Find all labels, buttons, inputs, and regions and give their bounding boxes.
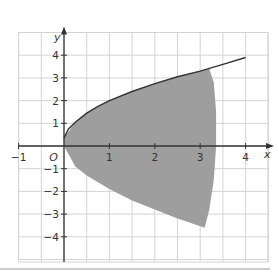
x-tick-label: 2: [151, 151, 158, 163]
x-tick-label: 4: [242, 151, 249, 163]
x-tick-label: 1: [106, 151, 113, 163]
y-tick-label: −3: [44, 208, 59, 220]
y-axis-arrow-icon: [61, 27, 67, 35]
y-tick-label: 1: [52, 117, 59, 129]
y-tick-label: −4: [44, 231, 60, 243]
y-tick-label: 4: [52, 49, 59, 61]
y-tick-label: −1: [44, 163, 59, 175]
y-axis-label: y: [53, 31, 61, 44]
y-tick-label: −2: [44, 185, 59, 197]
y-tick-label: 3: [52, 72, 59, 84]
graph: −11234−4−3−2−11234Oxy: [0, 0, 279, 276]
x-tick-label: −1: [11, 151, 26, 163]
x-axis-label: x: [263, 148, 271, 161]
origin-label: O: [49, 151, 58, 164]
y-tick-label: 2: [52, 95, 59, 107]
x-tick-label: 3: [197, 151, 204, 163]
